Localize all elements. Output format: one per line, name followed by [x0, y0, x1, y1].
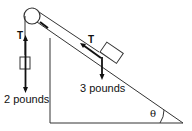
incline-block [100, 42, 123, 63]
hanging-mass-label: 2 pounds [4, 93, 49, 105]
pulley-incline-diagram [0, 0, 192, 131]
tension-label-left: T [17, 30, 23, 41]
arrow-up-icon [23, 35, 28, 41]
incline-surface [37, 22, 183, 123]
incline-mass-label: 3 pounds [80, 82, 125, 94]
rope-incline [33, 8, 99, 52]
angle-arc [160, 110, 164, 123]
tension-label-right: T [88, 34, 94, 45]
angle-label: θ [150, 108, 156, 119]
arrow-down-icon [100, 74, 105, 80]
pulley [24, 8, 40, 24]
